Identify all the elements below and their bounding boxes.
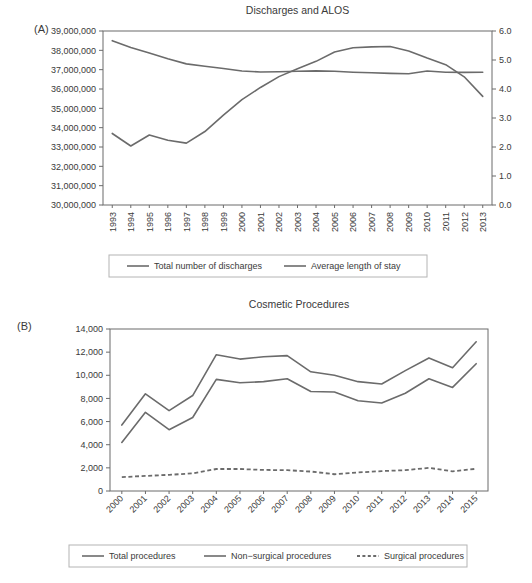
panel-a-xtick-label: 2001 (256, 212, 266, 232)
panel-b-xtick-label: 2005 (222, 493, 243, 514)
panel-b-ytick-label: 2,000 (80, 463, 103, 473)
panel-b-xtick-label: 2003 (175, 493, 196, 514)
panel-b-series-0 (122, 342, 476, 425)
panel-b-title: Cosmetic Procedures (249, 298, 349, 310)
panel-a-xtick-label: 2011 (441, 212, 451, 231)
panel-b-ytick-label: 4,000 (80, 440, 103, 450)
panel-b-xtick-label: 2010 (340, 493, 361, 514)
panel-a-xtick-label: 2004 (311, 212, 321, 232)
panel-a-y2tick-label: 1.0 (499, 171, 512, 181)
panel-a-xtick-label: 1997 (182, 212, 192, 232)
panel-b-xtick-label: 2004 (198, 493, 219, 514)
panel-a-ytick-label: 32,000,000 (51, 162, 96, 172)
panel-b-series-2 (122, 468, 476, 477)
panel-a-label: (A) (34, 23, 49, 35)
panel-a-y2tick-label: 0.0 (499, 200, 512, 210)
panel-a-ytick-label: 33,000,000 (51, 142, 96, 152)
panel-b-legend-label: Non−surgical procedures (231, 551, 332, 561)
panel-a-xtick-label: 2010 (422, 212, 432, 232)
panel-a-xtick-label: 2006 (348, 212, 358, 232)
panel-b-ytick-label: 12,000 (75, 347, 103, 357)
panel-a-xtick-label: 2000 (237, 212, 247, 232)
panel-a-ytick-label: 30,000,000 (51, 200, 96, 210)
panel-a-ytick-label: 34,000,000 (51, 123, 96, 133)
panel-b-xtick-label: 2012 (387, 493, 408, 514)
figure-container: (A)Discharges and ALOS30,000,00031,000,0… (0, 0, 532, 583)
panel-b-ytick-label: 8,000 (80, 394, 103, 404)
panel-b-xtick-label: 2002 (151, 493, 172, 514)
panel-a-ytick-label: 38,000,000 (51, 46, 96, 56)
panel-a-xtick-label: 1993 (108, 212, 118, 232)
panel-b-xtick-label: 2008 (293, 493, 314, 514)
two-panel-line-chart: (A)Discharges and ALOS30,000,00031,000,0… (0, 0, 532, 583)
panel-b-xtick-label: 2011 (364, 493, 385, 514)
panel-a-y2tick-label: 5.0 (499, 55, 512, 65)
panel-a-xtick-label: 1995 (145, 212, 155, 232)
panel-b-xtick-label: 2009 (317, 493, 338, 514)
panel-a-xtick-label: 2007 (367, 212, 377, 232)
panel-a-ytick-label: 35,000,000 (51, 104, 96, 114)
panel-a-ytick-label: 36,000,000 (51, 84, 96, 94)
panel-a-y2tick-label: 6.0 (499, 26, 512, 36)
panel-b-xtick-label: 2007 (269, 493, 290, 514)
panel-a-title: Discharges and ALOS (246, 4, 349, 16)
panel-b-xtick-label: 2015 (458, 493, 479, 514)
panel-a-xtick-label: 2002 (274, 212, 284, 232)
panel-b-label: (B) (17, 320, 32, 332)
panel-a-legend-label: Total number of discharges (154, 261, 263, 271)
panel-a-ytick-label: 31,000,000 (51, 181, 96, 191)
panel-b-xtick-label: 2013 (411, 493, 432, 514)
panel-b-legend-label: Surgical procedures (384, 551, 465, 561)
panel-a-xtick-label: 1994 (126, 212, 136, 232)
panel-b-xtick-label: 2001 (128, 493, 149, 514)
panel-b-xtick-label: 2014 (435, 493, 456, 514)
panel-b-series-1 (122, 364, 476, 443)
panel-a-xtick-label: 1998 (200, 212, 210, 232)
panel-a-xtick-label: 1999 (219, 212, 229, 232)
panel-b-xtick-label: 2000 (104, 493, 125, 514)
panel-a-legend-label: Average length of stay (311, 261, 401, 271)
panel-b-plot-frame (110, 329, 488, 491)
panel-a-ytick-label: 37,000,000 (51, 65, 96, 75)
panel-a-xtick-label: 2009 (404, 212, 414, 232)
panel-b-ytick-label: 0 (98, 486, 103, 496)
panel-a-ytick-label: 39,000,000 (51, 26, 96, 36)
panel-a-xtick-label: 2012 (460, 212, 470, 232)
panel-a-series-0 (112, 46, 482, 146)
panel-a: (A)Discharges and ALOS30,000,00031,000,0… (34, 4, 512, 277)
panel-a-y2tick-label: 3.0 (499, 113, 512, 123)
panel-a-xtick-label: 2008 (385, 212, 395, 232)
panel-b-ytick-label: 10,000 (75, 370, 103, 380)
panel-b-ytick-label: 14,000 (75, 324, 103, 334)
panel-b-legend-label: Total procedures (109, 551, 176, 561)
panel-a-y2tick-label: 4.0 (499, 84, 512, 94)
panel-b-ytick-label: 6,000 (80, 417, 103, 427)
panel-a-xtick-label: 2005 (330, 212, 340, 232)
panel-a-xtick-label: 2013 (478, 212, 488, 232)
panel-a-y2tick-label: 2.0 (499, 142, 512, 152)
panel-a-xtick-label: 2003 (293, 212, 303, 232)
panel-b: (B)Cosmetic Procedures02,0004,0006,0008,… (17, 298, 488, 567)
panel-b-xtick-label: 2006 (246, 493, 267, 514)
panel-a-xtick-label: 1996 (163, 212, 173, 232)
